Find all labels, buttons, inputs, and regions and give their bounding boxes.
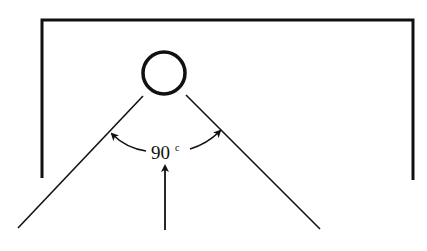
enclosure-frame: [42, 20, 413, 180]
source-circle: [143, 52, 185, 94]
right-angle-arc: [190, 131, 220, 149]
left-ray-line: [18, 96, 143, 228]
left-angle-arc: [112, 134, 146, 151]
angle-label: 90: [151, 142, 170, 163]
diagram-svg: 90 c: [0, 0, 427, 251]
angle-unit: c: [175, 142, 180, 153]
diagram-canvas: 90 c: [0, 0, 427, 251]
right-ray-line: [186, 95, 320, 229]
